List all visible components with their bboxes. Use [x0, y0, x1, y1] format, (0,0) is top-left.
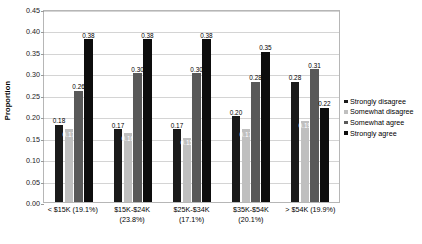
legend-swatch-icon [344, 110, 348, 114]
bar [310, 69, 319, 202]
legend-swatch-icon [344, 100, 348, 104]
bar-value-label: 0.35 [259, 44, 271, 51]
bar [84, 39, 93, 202]
bar-value-label: 0.38 [141, 32, 153, 39]
y-axis-title: Proportion [1, 0, 15, 200]
y-axis-title-label: Proportion [4, 80, 13, 119]
bar-group: 0.170.160.300.38 [103, 11, 162, 202]
bar-value-label: 0.19 [299, 122, 311, 129]
bar-value-label: 0.28 [289, 74, 301, 81]
bar [192, 73, 201, 202]
bar-value-label: 0.38 [200, 32, 212, 39]
bar-value-label: 0.26 [72, 83, 84, 90]
bar [242, 129, 251, 202]
bar-value-label: 0.16 [122, 135, 134, 142]
legend-swatch-icon [344, 121, 348, 125]
y-axis-tick-label: 0.45 [26, 6, 40, 15]
legend: Strongly disagreeSomewhat disagreeSomewh… [344, 96, 422, 138]
legend-item-label: Somewhat disagree [350, 107, 414, 116]
bar-value-label: 0.28 [249, 74, 261, 81]
bar [65, 129, 74, 202]
bar [261, 52, 270, 202]
y-axis-tick-label: 0.15 [26, 134, 40, 143]
bar [202, 39, 211, 202]
bar-value-label: 0.17 [63, 131, 75, 138]
y-axis-tick-label: 0.20 [26, 113, 40, 122]
bar-group: 0.170.150.300.38 [162, 11, 221, 202]
bar-value-label: 0.30 [190, 66, 202, 73]
y-axis-tick-label: 0.25 [26, 91, 40, 100]
bar-group: 0.180.170.260.38 [44, 11, 103, 202]
y-axis-tick-label: 0.30 [26, 70, 40, 79]
bar [320, 108, 329, 202]
bar-groups: 0.180.170.260.380.170.160.300.380.170.15… [44, 11, 339, 202]
legend-item-label: Strongly agree [350, 129, 397, 138]
plot-area: 0.180.170.260.380.170.160.300.380.170.15… [43, 10, 340, 203]
bar-value-label: 0.18 [53, 117, 65, 124]
bar [232, 116, 241, 202]
bar [251, 82, 260, 202]
y-axis-tick-label: 0.05 [26, 177, 40, 186]
bar-value-label: 0.15 [181, 139, 193, 146]
y-axis-tick-labels: 0.000.050.100.150.200.250.300.350.400.45 [14, 0, 42, 244]
x-axis-category-labels: < $15K (19.1%)$15K-$24K (23.8%)$25K-$34K… [43, 205, 340, 241]
y-axis-tick-label: 0.10 [26, 156, 40, 165]
y-axis-tick-label: 0.40 [26, 27, 40, 36]
bar [74, 91, 83, 203]
x-axis-category-label: $15K-$24K (23.8%) [102, 205, 161, 241]
bar-group: 0.280.190.310.22 [280, 11, 339, 202]
legend-item[interactable]: Strongly disagree [344, 96, 422, 107]
bar [301, 121, 310, 202]
legend-item-label: Strongly disagree [350, 97, 406, 106]
legend-item[interactable]: Somewhat disagree [344, 107, 422, 118]
y-axis-tick-label: 0.00 [26, 199, 40, 208]
bar [124, 133, 133, 202]
x-axis-category-label: $35K-$54K (20.1%) [221, 205, 280, 241]
bar [133, 73, 142, 202]
x-axis-category-label: $25K-$34K (17.1%) [162, 205, 221, 241]
bar [143, 39, 152, 202]
y-axis-tick-label: 0.35 [26, 48, 40, 57]
legend-item[interactable]: Strongly agree [344, 128, 422, 139]
bar-value-label: 0.17 [112, 122, 124, 129]
bar-value-label: 0.20 [230, 109, 242, 116]
bar-chart: Proportion 0.000.050.100.150.200.250.300… [0, 0, 422, 244]
bar [291, 82, 300, 202]
bar [183, 138, 192, 202]
legend-item[interactable]: Somewhat agree [344, 117, 422, 128]
legend-item-label: Somewhat agree [350, 118, 404, 127]
legend-swatch-icon [344, 131, 348, 135]
bar-value-label: 0.22 [318, 100, 330, 107]
bar-group: 0.200.170.280.35 [221, 11, 280, 202]
bar-value-label: 0.17 [240, 131, 252, 138]
bar-value-label: 0.31 [308, 62, 320, 69]
bar-value-label: 0.38 [82, 32, 94, 39]
x-axis-category-label: < $15K (19.1%) [43, 205, 102, 241]
bar-value-label: 0.30 [131, 66, 143, 73]
bar-value-label: 0.17 [171, 122, 183, 129]
x-axis-category-label: > $54K (19.9%) [281, 205, 340, 241]
